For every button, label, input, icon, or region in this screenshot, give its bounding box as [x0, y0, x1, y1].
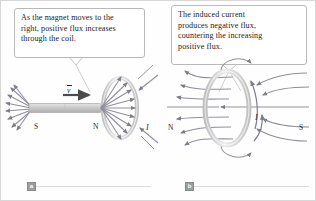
- current-label-b: I: [255, 113, 258, 122]
- current-label-a: I: [146, 123, 149, 132]
- caption-line: countering the increasing: [178, 31, 301, 42]
- panel-a-rule: [31, 186, 151, 187]
- caption-line: The induced current: [178, 10, 301, 21]
- panel-a: As the magnet moves to the right, positi…: [1, 1, 159, 201]
- magnet-north-label: N: [93, 122, 98, 131]
- caption-bubble-a: As the magnet moves to the right, positi…: [14, 8, 145, 58]
- magnet-south-label: S: [34, 122, 38, 131]
- caption-line: right, positive flux increases: [21, 24, 139, 35]
- physics-figure: As the magnet moves to the right, positi…: [0, 0, 316, 201]
- caption-line: positive flux.: [178, 42, 301, 53]
- caption-bubble-b: The induced current produces negative fl…: [171, 5, 307, 65]
- induced-north-label: N: [168, 123, 173, 132]
- panel-b-rule: [189, 186, 309, 187]
- diagram-b: [159, 57, 316, 175]
- induced-south-label: S: [299, 123, 303, 132]
- caption-line: As the magnet moves to the: [21, 13, 139, 24]
- panel-label-a: a: [27, 182, 36, 191]
- caption-line: produces negative flux,: [178, 21, 301, 32]
- caption-line: through the coil.: [21, 34, 139, 45]
- diagram-a: [1, 57, 159, 175]
- velocity-label: v: [67, 86, 70, 95]
- panel-b: The induced current produces negative fl…: [159, 1, 316, 201]
- panel-label-b: b: [185, 182, 194, 191]
